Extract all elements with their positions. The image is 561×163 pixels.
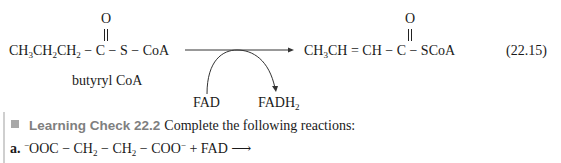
coenzyme-fad: FAD [193,95,220,111]
reactant-double-bond [104,29,108,41]
reactant-formula: CH3CH2CH2 − C − S − CoA [9,43,169,59]
product-carbonyl-oxygen: O [405,11,415,27]
coenzyme-fadh2: FADH2 [258,95,300,111]
product-double-bond [408,29,412,41]
reactant-name: butyryl CoA [72,73,142,89]
equation-number: (22.15) [506,43,547,59]
learning-check-instruction: Complete the following reactions: [164,118,355,133]
reaction-arrow-icon [185,40,295,100]
learning-check-square-icon [11,120,19,128]
learning-check-rule [3,112,5,163]
product-formula: CH3CH = CH − C − SCoA [304,43,455,59]
item-label: a. [10,141,21,156]
learning-check-heading: Learning Check 22.2 Complete the followi… [29,116,355,134]
learning-check-title: Learning Check 22.2 [29,118,160,133]
learning-check-item-a: a. −OOC − CH2 − CH2 − COO− + FAD ⟶ [10,140,251,157]
reactant-carbonyl-oxygen: O [101,11,111,27]
